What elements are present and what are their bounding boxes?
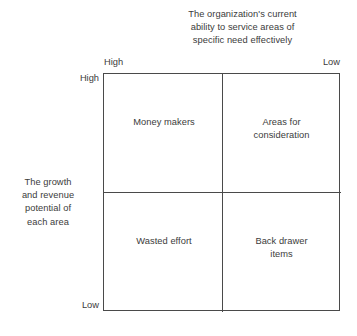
horizontal-divider-line: [104, 192, 341, 193]
quadrant-top-right-line-1: Areas for: [223, 116, 340, 129]
quadrant-bottom-right-line-2: items: [223, 248, 340, 261]
x-axis-high-label: High: [104, 56, 123, 68]
quadrant-top-right: Areas for consideration: [223, 116, 340, 142]
y-axis-caption: The growth and revenue potential of each…: [2, 176, 94, 229]
y-axis-caption-line-1: The growth: [2, 176, 94, 189]
x-axis-caption-line-2: ability to service areas of: [150, 21, 335, 34]
y-axis-caption-line-3: potential of: [2, 202, 94, 215]
quadrant-top-right-line-2: consideration: [223, 129, 340, 142]
vertical-divider-line: [222, 74, 223, 312]
quadrant-matrix-diagram: The organization's current ability to se…: [0, 0, 357, 336]
y-axis-low-label: Low: [68, 299, 99, 311]
quadrant-bottom-left-line-1: Wasted effort: [106, 235, 222, 248]
quadrant-top-left: Money makers: [106, 116, 222, 129]
quadrant-bottom-left: Wasted effort: [106, 235, 222, 248]
x-axis-caption-line-1: The organization's current: [150, 8, 335, 21]
matrix-box: Money makers Areas for consideration Was…: [103, 73, 340, 311]
x-axis-caption: The organization's current ability to se…: [150, 8, 335, 48]
quadrant-bottom-right-line-1: Back drawer: [223, 235, 340, 248]
y-axis-high-label: High: [68, 72, 99, 84]
y-axis-caption-line-2: and revenue: [2, 189, 94, 202]
quadrant-bottom-right: Back drawer items: [223, 235, 340, 261]
x-axis-low-label: Low: [289, 56, 340, 68]
x-axis-caption-line-3: specific need effectively: [150, 34, 335, 47]
quadrant-top-left-line-1: Money makers: [106, 116, 222, 129]
y-axis-caption-line-4: each area: [2, 216, 94, 229]
